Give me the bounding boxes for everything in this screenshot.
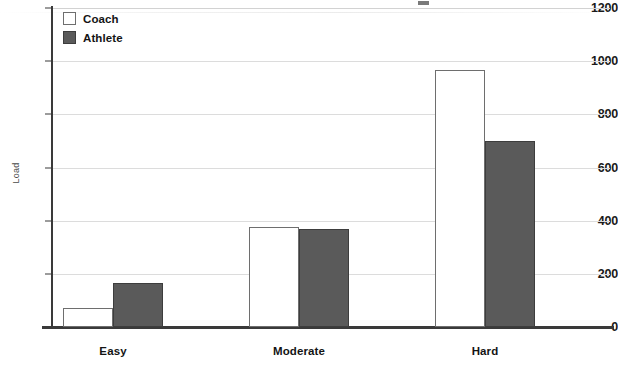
legend-label-coach: Coach xyxy=(83,13,119,25)
bar-moderate-coach[interactable] xyxy=(249,227,299,327)
legend: Coach Athlete xyxy=(63,12,123,50)
bar-hard-coach[interactable] xyxy=(435,70,485,327)
bar-easy-coach[interactable] xyxy=(63,308,113,327)
legend-item-coach[interactable]: Coach xyxy=(63,12,123,25)
legend-swatch-athlete-icon xyxy=(63,31,76,44)
y-axis-line xyxy=(51,6,53,327)
gridline xyxy=(51,8,610,9)
legend-swatch-coach-icon xyxy=(63,12,76,25)
gridline xyxy=(51,114,610,115)
scan-speck-artifact xyxy=(418,1,429,5)
bar-moderate-athlete[interactable] xyxy=(299,229,349,327)
bar-easy-athlete[interactable] xyxy=(113,283,163,327)
legend-item-athlete[interactable]: Athlete xyxy=(63,31,123,44)
x-tick-label-moderate: Moderate xyxy=(273,345,325,357)
x-tick-label-hard: Hard xyxy=(472,345,499,357)
gridline xyxy=(51,61,610,62)
legend-label-athlete: Athlete xyxy=(83,32,123,44)
bar-chart: Load 020040060080010001200 Coach Athlete… xyxy=(0,0,618,373)
bar-hard-athlete[interactable] xyxy=(485,141,535,327)
y-axis-title: Load xyxy=(11,143,21,203)
plot-area: Coach Athlete xyxy=(51,8,610,327)
x-tick-label-easy: Easy xyxy=(99,345,126,357)
